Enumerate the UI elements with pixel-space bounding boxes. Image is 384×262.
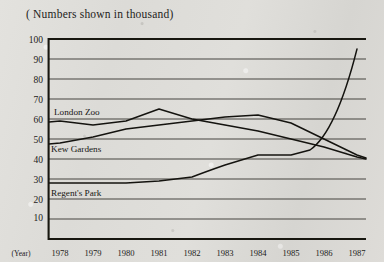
- x-tick-1983: 1983: [216, 248, 233, 258]
- series-label-kew-gardens: Kew Gardens: [51, 144, 102, 154]
- y-tick-70: 70: [34, 95, 44, 105]
- y-tick-30: 30: [34, 175, 44, 185]
- x-tick-1981: 1981: [150, 248, 167, 258]
- x-tick-1978: 1978: [51, 248, 68, 258]
- x-tick-1987: 1987: [348, 248, 366, 258]
- y-tick-20: 20: [34, 195, 44, 205]
- series-label-regents-park: Regent's Park: [51, 188, 102, 198]
- x-tick-1986: 1986: [315, 248, 333, 258]
- x-tick-1985: 1985: [282, 248, 299, 258]
- y-tick-10: 10: [34, 213, 44, 223]
- y-tick-50: 50: [34, 135, 44, 145]
- line-chart: 100 90 80 70 60 50 40 30 20 10 London Zo…: [0, 0, 384, 262]
- x-tick-1984: 1984: [249, 248, 267, 258]
- x-axis-caption: (Year): [11, 249, 31, 258]
- y-axis-tick-labels: 100 90 80 70 60 50 40 30 20 10: [29, 35, 44, 223]
- y-tick-40: 40: [34, 155, 44, 165]
- y-tick-90: 90: [34, 55, 44, 65]
- series-label-london-zoo: London Zoo: [54, 107, 100, 117]
- y-tick-100: 100: [29, 35, 44, 45]
- x-axis-tick-labels: 1978 1979 1980 1981 1982 1983 1984 1985 …: [51, 248, 366, 258]
- y-tick-60: 60: [34, 115, 44, 125]
- y-tick-80: 80: [34, 75, 44, 85]
- x-tick-1980: 1980: [117, 248, 134, 258]
- x-tick-1982: 1982: [183, 248, 200, 258]
- x-tick-1979: 1979: [84, 248, 101, 258]
